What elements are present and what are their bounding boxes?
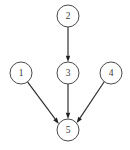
- nodes-layer: 12345: [10, 5, 122, 141]
- graph-node-5[interactable]: 5: [57, 119, 79, 141]
- node-label-2: 2: [66, 11, 71, 21]
- edge-2-to-3: [66, 27, 70, 62]
- edge-4-to-5: [77, 82, 105, 123]
- graph-svg: 12345: [0, 0, 130, 150]
- node-label-4: 4: [109, 68, 114, 78]
- arrowhead-icon: [66, 113, 70, 119]
- node-label-5: 5: [66, 125, 71, 135]
- edge-3-to-5: [66, 84, 70, 119]
- node-label-3: 3: [66, 68, 71, 78]
- graph-node-1[interactable]: 1: [10, 62, 32, 84]
- graph-node-4[interactable]: 4: [100, 62, 122, 84]
- graph-node-3[interactable]: 3: [57, 62, 79, 84]
- arrowhead-icon: [77, 117, 82, 123]
- graph-canvas: 12345: [0, 0, 130, 150]
- edge-shaft: [80, 82, 104, 118]
- node-label-1: 1: [19, 68, 24, 78]
- edge-shaft: [28, 82, 56, 119]
- edge-1-to-5: [28, 82, 59, 124]
- arrowhead-icon: [66, 56, 70, 62]
- graph-node-2[interactable]: 2: [57, 5, 79, 27]
